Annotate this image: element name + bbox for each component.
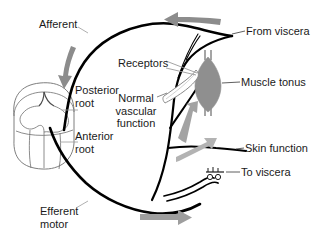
label-efferent-motor-line2: motor (40, 218, 78, 231)
label-vascular-line3: function (107, 117, 165, 130)
nerve-branch-to-viscera-a (164, 177, 214, 196)
skeletal-muscle-spindle (195, 50, 221, 116)
label-muscle-tonus: Muscle tonus (241, 76, 306, 89)
label-anterior-root: Anterior root (75, 130, 114, 155)
visceral-ganglion (206, 167, 224, 180)
nerve-branch-to-viscera-b (167, 182, 218, 201)
arrow-to-muscle (178, 101, 198, 143)
reflex-arc-diagram: Afferent Posterior root Anterior root Ef… (0, 0, 313, 241)
leader-from-viscera (232, 31, 245, 34)
label-from-viscera: From viscera (246, 25, 310, 38)
label-skin-function: Skin function (245, 142, 308, 155)
label-receptors: Receptors (118, 57, 168, 70)
leader-muscle-tonus (222, 82, 240, 83)
label-anterior-root-line1: Anterior (75, 130, 114, 143)
label-efferent-motor-line1: Efferent (40, 205, 78, 218)
leader-skin-function (236, 148, 244, 149)
label-to-viscera: To viscera (241, 166, 291, 179)
label-vascular-line2: vascular (107, 105, 165, 118)
label-vascular-line1: Normal (107, 92, 165, 105)
label-efferent-motor: Efferent motor (40, 205, 78, 230)
label-anterior-root-line2: root (75, 143, 114, 156)
nerve-twig-receptor (186, 36, 200, 60)
label-normal-vascular-function: Normal vascular function (107, 92, 165, 130)
label-afferent: Afferent (39, 18, 77, 31)
leader-afferent (78, 27, 88, 33)
nerve-branch-to-skin (168, 147, 246, 152)
arrow-to-skin (176, 138, 217, 162)
